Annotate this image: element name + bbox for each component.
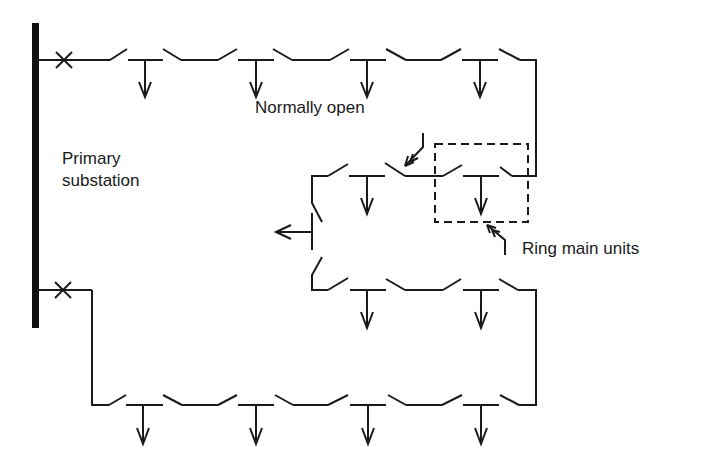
ring-main-diagram	[0, 0, 704, 471]
branch-outlet	[276, 213, 312, 250]
normally-open-pointer	[405, 133, 423, 166]
normally-open-switch	[385, 163, 405, 176]
ring-main-units-pointer	[487, 225, 505, 255]
bottom-feeder	[39, 282, 519, 444]
busbar	[32, 23, 39, 328]
primary-substation-label: Primary substation	[62, 148, 140, 192]
normally-open-label: Normally open	[255, 97, 365, 119]
ring-main-units-label: Ring main units	[522, 238, 639, 260]
primary-label-line2: substation	[62, 170, 140, 192]
lower-return-row	[312, 257, 536, 405]
primary-label-line1: Primary	[62, 148, 140, 170]
upper-return-row	[312, 163, 512, 222]
